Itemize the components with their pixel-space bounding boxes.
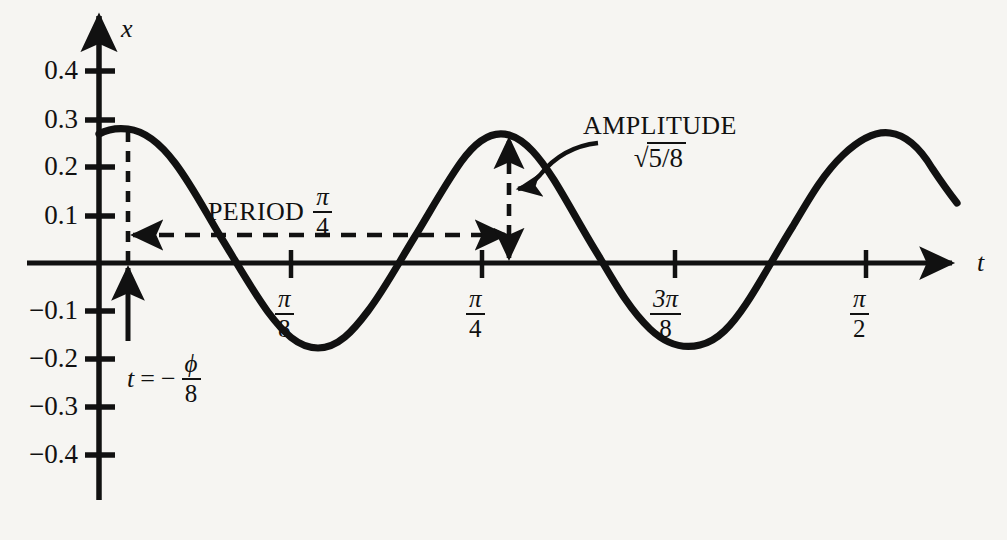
x-tick-label-pi-over-8: π 8: [275, 286, 294, 341]
y-tick-label-neg0.2: −0.2: [0, 345, 78, 372]
y-tick-label-0.4: 0.4: [0, 57, 78, 84]
phase-minus: −: [161, 366, 176, 392]
x-tick-label-pi-over-4: π 4: [466, 286, 485, 341]
y-tick-label-neg0.1: −0.1: [0, 297, 78, 324]
fraction-3pi-8: 3π 8: [650, 286, 681, 341]
sinusoid-plot: [0, 0, 1007, 540]
period-value-fraction: π 4: [313, 184, 332, 239]
y-tick-label-neg0.3: −0.3: [0, 393, 78, 420]
figure-canvas: x t 0.4 0.3 0.2 0.1 −0.1 −0.2 −0.3 −0.4 …: [0, 0, 1007, 540]
amplitude-annotation-text: AMPLITUDE: [583, 111, 737, 140]
y-axis-label: x: [121, 16, 133, 42]
y-tick-label-0.3: 0.3: [0, 106, 78, 133]
phase-variable: t: [127, 366, 134, 392]
y-tick-label-0.1: 0.1: [0, 202, 78, 229]
phase-equals: =: [140, 366, 155, 392]
fraction-pi-4: π 4: [466, 286, 485, 341]
period-annotation: PERIOD π 4: [208, 184, 332, 239]
axis-lines: [27, 16, 952, 500]
y-tick-label-0.2: 0.2: [0, 153, 78, 180]
radicand: 5/8: [647, 142, 687, 172]
period-annotation-text: PERIOD: [208, 199, 304, 225]
amplitude-value: √5/8: [583, 142, 737, 172]
phase-annotation: t = − ϕ 8: [127, 351, 201, 406]
x-tick-label-pi-over-2: π 2: [850, 286, 869, 341]
amplitude-annotation: AMPLITUDE √5/8: [583, 112, 737, 172]
phase-fraction: ϕ 8: [182, 351, 201, 406]
y-tick-label-neg0.4: −0.4: [0, 441, 78, 468]
fraction-pi-2: π 2: [850, 286, 869, 341]
fraction-pi-8: π 8: [275, 286, 294, 341]
x-tick-label-3pi-over-8: 3π 8: [650, 286, 681, 341]
x-axis-label: t: [977, 250, 984, 276]
